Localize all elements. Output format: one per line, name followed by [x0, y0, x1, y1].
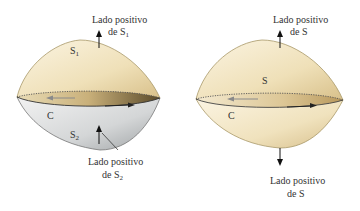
caption-bottom-left-line1: Lado positivo [88, 156, 143, 167]
caption-bottom-left-line2: de S2 [102, 169, 124, 182]
surface-s1 [17, 40, 160, 98]
caption-bottom-right-line2: de S [287, 188, 305, 199]
normal-arrow-down [277, 148, 283, 166]
label-s: S [262, 75, 268, 86]
right-figure: S C Lado positivo de S Lado positivo de … [196, 14, 343, 199]
caption-top-right-line1: Lado positivo [273, 14, 328, 25]
diagram: S1 C S2 Lado positivo de S1 Lado positiv… [0, 0, 360, 211]
caption-top-left-line1: Lado positivo [92, 14, 147, 25]
caption-top-left-line2: de S1 [108, 26, 130, 39]
surface-s-upper [196, 40, 343, 100]
label-c-right: C [228, 110, 235, 121]
caption-top-right-line2: de S [290, 26, 308, 37]
label-c-left: C [47, 110, 54, 121]
left-figure: S1 C S2 Lado positivo de S1 Lado positiv… [17, 14, 160, 182]
caption-bottom-right-line1: Lado positivo [270, 175, 325, 186]
